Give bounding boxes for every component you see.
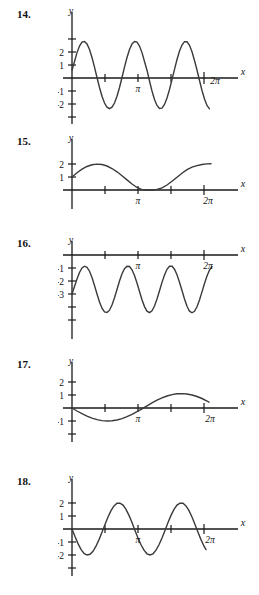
x-tick-label-twopi: 2π xyxy=(203,261,213,271)
y-tick-label-neg1: -1 xyxy=(58,87,64,97)
graph-14: y x 2 1 -1 -2 π 2π xyxy=(58,6,248,126)
x-axis-label: x xyxy=(240,243,246,254)
y-tick-label-neg1: -1 xyxy=(58,264,64,274)
graph-17: y x 2 1 -1 π 2π xyxy=(58,356,248,446)
y-tick-label-1: 1 xyxy=(59,173,64,183)
curve-17 xyxy=(72,394,209,421)
x-tick-label-pi: π xyxy=(136,414,141,424)
y-axis-label: y xyxy=(68,133,74,143)
y-tick-label-1: 1 xyxy=(59,61,64,71)
x-tick-label-twopi: 2π xyxy=(205,414,215,424)
y-tick-label-1: 1 xyxy=(59,391,64,401)
problem-number-18: 18. xyxy=(17,475,31,487)
y-tick-label-neg2: -2 xyxy=(58,100,64,110)
worksheet-page: { "page": { "kind": "textbook-exercise-g… xyxy=(0,0,259,595)
y-axis-label: y xyxy=(68,356,74,366)
x-tick-label-twopi: 2π xyxy=(210,76,220,86)
x-tick-label-twopi: 2π xyxy=(205,535,215,545)
graph-17-svg: y x 2 1 -1 π 2π xyxy=(58,356,248,446)
problem-17: 17. y x 2 1 -1 π 2π xyxy=(0,330,259,435)
problem-14: 14. y x 2 1 -1 -2 π xyxy=(0,0,259,130)
x-tick-label-pi: π xyxy=(136,84,141,94)
x-tick-label-pi: π xyxy=(136,261,141,271)
x-axis-label: x xyxy=(240,396,246,407)
x-axis-label: x xyxy=(240,178,246,189)
problem-number-15: 15. xyxy=(17,135,31,147)
y-tick-label-neg2: -2 xyxy=(58,551,64,561)
y-tick-label-2: 2 xyxy=(59,378,64,388)
y-tick-label-neg1: -1 xyxy=(58,417,64,427)
x-axis-label: x xyxy=(240,517,246,528)
problem-number-17: 17. xyxy=(17,358,31,370)
y-tick-label-2: 2 xyxy=(59,160,64,170)
graph-16: y x -1 -2 -3 π 2π xyxy=(58,235,248,345)
curve-14 xyxy=(72,42,210,109)
y-tick-label-neg1: -1 xyxy=(58,538,64,548)
curve-16 xyxy=(72,266,212,313)
y-tick-label-2: 2 xyxy=(59,48,64,58)
problem-number-16: 16. xyxy=(17,237,31,249)
x-tick-label-pi: π xyxy=(136,535,141,545)
graph-16-svg: y x -1 -2 -3 π 2π xyxy=(58,235,248,345)
y-tick-label-1: 1 xyxy=(59,512,64,522)
y-tick-label-neg2: -2 xyxy=(58,277,64,287)
x-tick-label-twopi: 2π xyxy=(203,196,213,206)
x-axis-label: x xyxy=(240,66,246,77)
graph-18: y x 2 1 -1 -2 π 2π xyxy=(58,473,248,593)
graph-15: y x 2 1 π 2π xyxy=(58,133,248,213)
y-tick-label-neg3: -3 xyxy=(58,290,64,300)
problem-18: 18. y x 2 1 -1 -2 π 2π xyxy=(0,435,259,595)
problem-16: 16. y x -1 -2 -3 π 2π xyxy=(0,215,259,330)
problem-15: 15. y x 2 1 π 2π xyxy=(0,125,259,215)
y-axis-label: y xyxy=(68,6,74,16)
y-axis-label: y xyxy=(68,235,74,245)
y-tick-label-2: 2 xyxy=(59,499,64,509)
graph-15-svg: y x 2 1 π 2π xyxy=(58,133,248,213)
graph-14-svg: y x 2 1 -1 -2 π 2π xyxy=(58,6,248,126)
graph-18-svg: y x 2 1 -1 -2 π 2π xyxy=(58,473,248,593)
x-tick-label-pi: π xyxy=(136,196,141,206)
curve-15 xyxy=(72,164,211,190)
y-axis-label: y xyxy=(68,473,74,483)
problem-number-14: 14. xyxy=(17,8,31,20)
